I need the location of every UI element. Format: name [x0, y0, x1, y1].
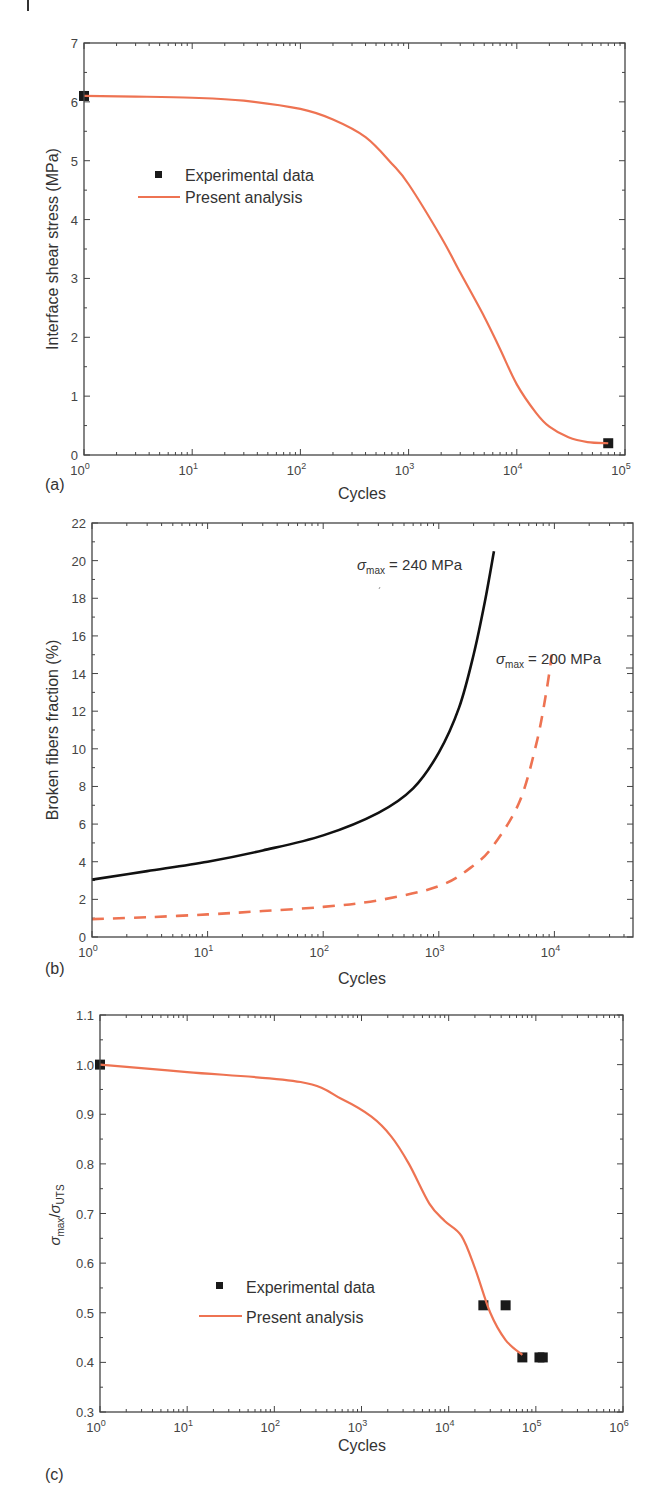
x-tick-exponent: 6	[624, 1418, 629, 1428]
y-tick-label: 22	[72, 516, 86, 531]
y-tick-label: 1	[71, 389, 78, 404]
y-tick-label: 6	[71, 95, 78, 110]
x-tick-exponent: 4	[555, 943, 560, 953]
y-tick-label: 12	[72, 704, 86, 719]
panel-a-x-tick-labels: 100101102103104105	[70, 461, 630, 478]
subscript: UTS	[55, 1184, 66, 1204]
chart-panel-c: 0.30.40.50.60.70.80.91.01.1 100101102103…	[45, 1008, 629, 1483]
x-tick-exponent: 1	[188, 1418, 193, 1428]
panel-a-x-axis-title: Cycles	[338, 485, 386, 502]
legend-experimental-label: Experimental data	[246, 1279, 375, 1296]
y-tick-label: 0	[71, 448, 78, 463]
x-tick-exponent: 1	[193, 461, 198, 471]
subscript: max	[505, 659, 524, 670]
panel-c-x-axis-title: Cycles	[338, 1437, 386, 1454]
panel-c-x-tick-labels: 100101102103104105106	[86, 1418, 629, 1435]
panel-b-x-tick-labels: 100101102103104	[78, 943, 560, 960]
x-tick-label: 102	[287, 461, 306, 478]
panel-a-ticks	[84, 43, 625, 455]
x-tick-label: 104	[541, 943, 560, 960]
x-tick-label: 101	[178, 461, 197, 478]
y-tick-label: 1.0	[76, 1058, 94, 1073]
y-tick-label: 10	[72, 742, 86, 757]
y-tick-label: 16	[72, 629, 86, 644]
annotation-200mpa: σmax = 200 MPa	[496, 650, 602, 670]
panel-c-y-axis-title: σmax/σUTS	[46, 1184, 66, 1246]
subscript: max	[366, 565, 385, 576]
present-analysis-curve	[84, 96, 608, 443]
x-tick-exponent: 3	[409, 461, 414, 471]
curve-240mpa	[92, 551, 494, 879]
y-tick-label: 4	[71, 213, 78, 228]
panel-b-plot-frame	[92, 523, 633, 937]
x-tick-label: 101	[173, 1418, 192, 1435]
page-margin-mark	[27, 0, 29, 11]
y-tick-label: 18	[72, 591, 86, 606]
x-tick-label: 103	[348, 1418, 367, 1435]
legend-experimental-marker-icon	[155, 171, 162, 178]
x-tick-exponent: 5	[626, 461, 631, 471]
legend-analysis-label: Present analysis	[185, 189, 302, 206]
y-tick-label: 7	[71, 36, 78, 51]
x-tick-exponent: 2	[301, 461, 306, 471]
x-tick-exponent: 0	[85, 461, 90, 471]
panel-b-y-axis-title: Broken fibers fraction (%)	[44, 640, 61, 821]
y-tick-label: 5	[71, 154, 78, 169]
x-tick-label: 105	[522, 1418, 541, 1435]
annotation-value: = 200 MPa	[524, 650, 602, 667]
annotation-240mpa: σmax = 240 MPa	[357, 556, 463, 576]
y-tick-label: 0.4	[76, 1355, 94, 1370]
y-tick-label: 8	[79, 779, 86, 794]
panel-b-x-axis-title: Cycles	[338, 970, 386, 987]
panel-a-y-axis-title: Interface shear stress (MPa)	[44, 148, 61, 350]
x-tick-exponent: 3	[362, 1418, 367, 1428]
x-tick-exponent: 0	[101, 1418, 106, 1428]
x-tick-exponent: 5	[537, 1418, 542, 1428]
x-tick-exponent: 4	[518, 461, 523, 471]
y-tick-label: 3	[71, 271, 78, 286]
panel-c-y-tick-labels: 0.30.40.50.60.70.80.91.01.1	[76, 1008, 94, 1420]
x-tick-label: 100	[86, 1418, 105, 1435]
x-tick-label: 104	[435, 1418, 454, 1435]
y-tick-label: 0.6	[76, 1256, 94, 1271]
x-tick-label: 106	[609, 1418, 628, 1435]
y-tick-label: 2	[79, 892, 86, 907]
panel-b-y-tick-labels: 0246810121416182022	[72, 516, 86, 945]
experimental-data-point	[538, 1352, 548, 1362]
y-tick-label: 0.9	[76, 1107, 94, 1122]
chart-panel-a: 01234567 100101102103104105 Interface sh…	[44, 36, 631, 502]
x-tick-exponent: 1	[208, 943, 213, 953]
panel-a-legend: Experimental data Present analysis	[138, 167, 314, 206]
panel-a-label: (a)	[45, 476, 65, 493]
y-tick-label: 4	[79, 855, 86, 870]
x-tick-label: 103	[395, 461, 414, 478]
y-tick-label: 0	[79, 930, 86, 945]
legend-analysis-label: Present analysis	[246, 1309, 363, 1326]
x-tick-label: 105	[611, 461, 630, 478]
panel-c-label: (c)	[45, 1466, 64, 1483]
x-tick-label: 104	[503, 461, 522, 478]
y-tick-label: 0.8	[76, 1157, 94, 1172]
y-tick-label: 20	[72, 554, 86, 569]
experimental-data-point	[501, 1300, 511, 1310]
y-tick-label: 1.1	[76, 1008, 94, 1023]
panel-c-legend: Experimental data Present analysis	[199, 1279, 375, 1326]
x-tick-exponent: 2	[324, 943, 329, 953]
panel-b-ticks	[92, 523, 633, 937]
y-tick-label: 14	[72, 667, 86, 682]
x-tick-label: 100	[70, 461, 89, 478]
y-tick-label: 0.7	[76, 1207, 94, 1222]
legend-experimental-marker-icon	[216, 1282, 223, 1289]
panel-a-plot-frame	[84, 43, 625, 455]
x-tick-label: 100	[78, 943, 97, 960]
y-tick-label: 0.3	[76, 1405, 94, 1420]
panel-b-series	[92, 551, 552, 919]
x-tick-label: 102	[261, 1418, 280, 1435]
chart-panel-b: 0246810121416182022 100101102103104 Brok…	[44, 516, 633, 987]
stray-mark	[379, 587, 380, 589]
curve-200mpa	[92, 655, 552, 919]
x-tick-exponent: 0	[93, 943, 98, 953]
x-tick-exponent: 4	[449, 1418, 454, 1428]
y-tick-label: 0.5	[76, 1306, 94, 1321]
x-tick-label: 102	[309, 943, 328, 960]
